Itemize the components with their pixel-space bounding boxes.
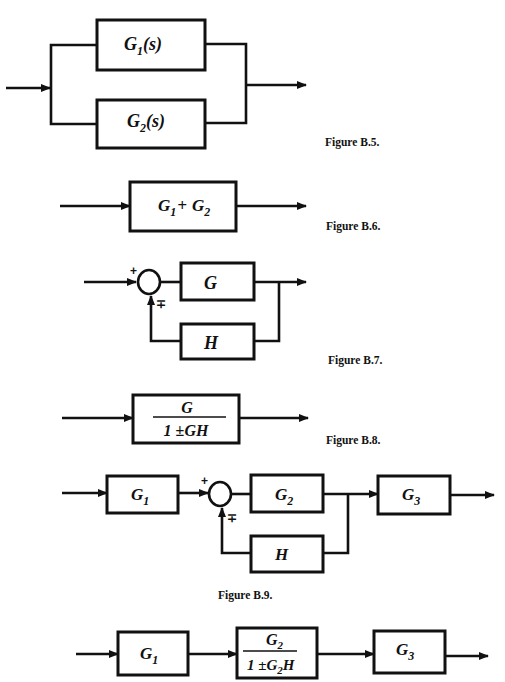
merge-line (205, 44, 246, 123)
figure-b5: G1(s) G2(s) Figure B.5. (6, 20, 380, 149)
feedback-takeoff (323, 494, 348, 553)
figure-caption: Figure B.6. (326, 220, 381, 233)
feedback-sign: ∓ (227, 511, 237, 525)
block-diagram-canvas: G1(s) G2(s) Figure B.5. G1+G2 Figure B.6… (0, 0, 505, 682)
figure-b9: G1 + G2 H ∓ G3 Figure B.9. (62, 474, 494, 602)
summing-junction (138, 270, 160, 294)
figure-caption: Figure B.7. (328, 354, 383, 367)
numerator: G (181, 399, 193, 416)
figure-caption: Figure B.9. (218, 589, 273, 602)
figure-b6: G1+G2 Figure B.6. (60, 182, 381, 233)
feedback-takeoff (254, 282, 279, 341)
denominator: 1 ±GH (164, 422, 209, 439)
summing-junction (209, 482, 231, 506)
input-sign: + (201, 474, 208, 488)
feedback-sign: ∓ (156, 297, 166, 311)
input-sign: + (130, 264, 137, 278)
block-g (181, 263, 254, 300)
figure-b8: G 1 ±GH Figure B.8. (62, 395, 381, 447)
block-h-label: H (274, 545, 289, 564)
figure-caption: Figure B.5. (325, 136, 380, 149)
block-g-label: G (204, 273, 217, 293)
split-line (51, 45, 97, 124)
figure-caption: Figure B.8. (326, 434, 381, 447)
block-h-label: H (203, 333, 219, 353)
figure-b10: G1 G2 1 ±G2H G3 (76, 628, 488, 678)
figure-b7: + G H ∓ Figure B.7. (84, 263, 383, 367)
